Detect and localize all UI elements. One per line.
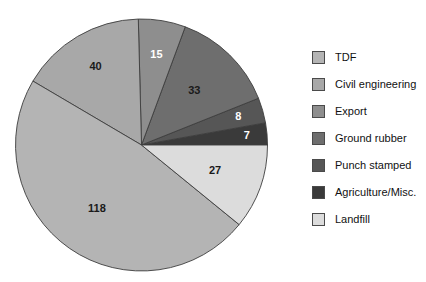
legend-item-label: Export xyxy=(335,105,367,118)
legend-swatch xyxy=(312,105,325,118)
pie-slice-value: 33 xyxy=(188,84,200,96)
legend-item-label: Landfill xyxy=(335,213,370,226)
legend-item[interactable]: Ground rubber xyxy=(312,125,426,152)
pie-chart-svg: 7833154011827 xyxy=(0,0,290,282)
legend-swatch xyxy=(312,159,325,172)
chart-legend: TDFCivil engineeringExportGround rubberP… xyxy=(312,44,426,233)
legend-item[interactable]: Civil engineering xyxy=(312,71,426,98)
pie-slice-value: 7 xyxy=(244,129,250,141)
pie-slice-value: 40 xyxy=(89,60,101,72)
legend-item[interactable]: Export xyxy=(312,98,426,125)
pie-slice-value: 27 xyxy=(209,164,221,176)
pie-chart-area: 7833154011827 xyxy=(0,0,290,282)
pie-slice-value: 15 xyxy=(150,48,162,60)
pie-slices xyxy=(16,19,268,271)
legend-item[interactable]: Landfill xyxy=(312,206,426,233)
legend-swatch xyxy=(312,78,325,91)
pie-slice-value: 8 xyxy=(235,110,241,122)
legend-item-label: Punch stamped xyxy=(335,159,411,172)
legend-item-label: TDF xyxy=(335,51,356,64)
legend-swatch xyxy=(312,213,325,226)
pie-slice-value: 118 xyxy=(88,202,106,214)
legend-swatch xyxy=(312,186,325,199)
legend-item[interactable]: TDF xyxy=(312,44,426,71)
legend-item-label: Agriculture/Misc. xyxy=(335,186,416,199)
legend-item[interactable]: Punch stamped xyxy=(312,152,426,179)
legend-item[interactable]: Agriculture/Misc. xyxy=(312,179,426,206)
legend-item-label: Civil engineering xyxy=(335,78,416,91)
legend-swatch xyxy=(312,51,325,64)
legend-item-label: Ground rubber xyxy=(335,132,407,145)
legend-swatch xyxy=(312,132,325,145)
